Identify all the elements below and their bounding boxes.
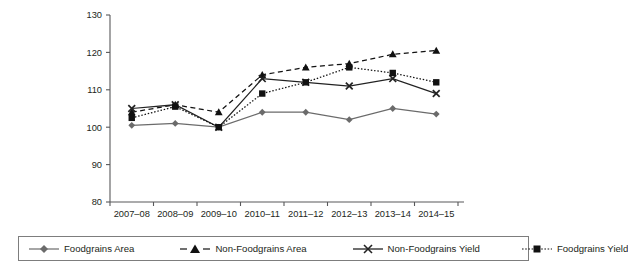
data-point-marker: [433, 90, 440, 97]
data-point-marker: [172, 120, 179, 127]
x-tick-label: 2013–14: [375, 209, 411, 219]
legend-item-foodgrains-area[interactable]: Foodgrains Area: [27, 237, 134, 260]
data-point-marker: [432, 47, 440, 54]
legend-symbol-square-icon: [520, 242, 554, 256]
x-tick-label: 2012–13: [331, 209, 367, 219]
y-tick-label: 80: [92, 197, 102, 207]
y-tick-label: 100: [86, 123, 102, 133]
legend-label: Foodgrains Yield: [554, 243, 628, 254]
x-tick-label: 2010–11: [244, 209, 280, 219]
legend-item-non-foodgrains-area[interactable]: Non-Foodgrains Area: [178, 237, 306, 260]
data-point-marker: [346, 116, 353, 123]
data-point-marker: [129, 115, 135, 121]
data-point-marker: [302, 63, 310, 70]
y-tick-label: 110: [87, 85, 102, 95]
data-series-group: [128, 47, 440, 131]
x-tick-label: 2009–10: [201, 209, 237, 219]
y-axis: 1301201101009080: [86, 10, 110, 207]
legend-symbol-cross-icon: [351, 242, 385, 256]
data-point-marker: [433, 111, 440, 118]
data-point-marker: [303, 79, 309, 85]
y-tick-label: 130: [86, 10, 102, 20]
legend-item-non-foodgrains-yield[interactable]: Non-Foodgrains Yield: [351, 237, 480, 260]
x-axis: 2007–082008–092009–102010–112011–122012–…: [110, 202, 464, 219]
plot-svg: 1301201101009080 2007–082008–092009–1020…: [0, 0, 549, 230]
legend-label: Foodgrains Area: [61, 243, 134, 254]
data-point-marker: [128, 122, 135, 129]
data-point-marker: [302, 109, 309, 116]
chart-legend: Foodgrains Area Non-Foodgrains Area Non-…: [18, 236, 529, 261]
data-point-marker: [172, 103, 178, 109]
y-tick-label: 120: [86, 48, 102, 58]
x-tick-label: 2008–09: [157, 209, 193, 219]
data-point-marker: [259, 109, 266, 116]
plot-area: 1301201101009080 2007–082008–092009–1020…: [0, 0, 549, 230]
x-tick-label: 2011–12: [288, 209, 324, 219]
data-point-marker: [390, 70, 396, 76]
x-tick-label: 2014–15: [418, 209, 454, 219]
y-tick-label: 90: [92, 160, 102, 170]
legend-symbol-triangle-icon: [178, 242, 212, 256]
data-point-marker: [216, 124, 222, 130]
data-point-marker: [389, 105, 396, 112]
legend-symbol-diamond-icon: [27, 242, 61, 256]
data-point-marker: [433, 79, 439, 85]
legend-label: Non-Foodgrains Yield: [385, 243, 480, 254]
data-point-marker: [346, 64, 352, 70]
legend-item-foodgrains-yield[interactable]: Foodgrains Yield: [520, 237, 628, 260]
legend-label: Non-Foodgrains Area: [212, 243, 306, 254]
x-tick-label: 2007–08: [114, 209, 150, 219]
data-point-marker: [259, 90, 265, 96]
